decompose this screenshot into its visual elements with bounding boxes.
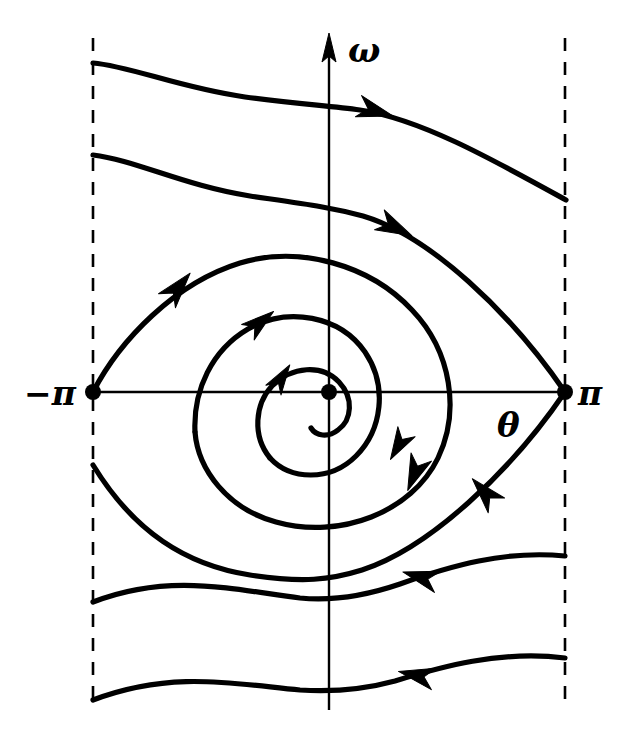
arrow-bottom-outer-leftward	[396, 661, 436, 690]
tick-plus-pi: π	[577, 374, 603, 413]
arrow-mid-spiral-up-right	[242, 304, 280, 340]
phase-portrait-canvas: ω θ −π π	[0, 0, 629, 753]
saddle-left	[85, 384, 101, 400]
tick-minus-pi: −π	[24, 374, 77, 413]
trajectory-inner-spiral-second-turn	[195, 317, 379, 475]
arrow-bottom-inner-leftward	[400, 561, 441, 592]
phase-portrait-figure: ω θ −π π	[0, 0, 629, 753]
labels-group: ω θ −π π	[24, 30, 603, 445]
saddle-right	[557, 384, 573, 400]
theta-axis-label: θ	[497, 405, 520, 445]
omega-axis-label: ω	[348, 30, 380, 70]
spiral-origin	[321, 384, 337, 400]
arrow-lower-separatrix-leftward	[464, 471, 504, 512]
